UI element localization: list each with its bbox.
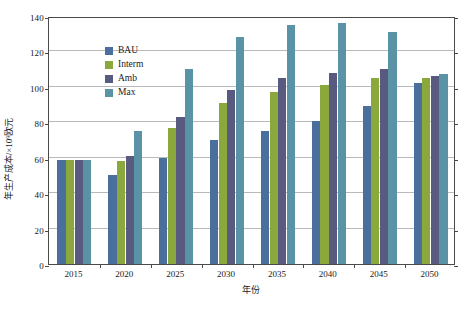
bar-interm-2045 xyxy=(371,78,379,264)
y-axis-tick-mark xyxy=(454,231,458,232)
x-axis-tick-label: 2030 xyxy=(217,269,235,279)
legend-label-bau: BAU xyxy=(118,46,138,56)
bar-interm-2030 xyxy=(219,103,227,264)
bar-interm-2020 xyxy=(117,161,125,264)
bar-amb-2025 xyxy=(176,117,184,264)
y-axis-tick-mark xyxy=(45,124,49,125)
legend-item-interm: Interm xyxy=(105,58,143,71)
bar-max-2025 xyxy=(185,69,193,264)
bar-interm-2035 xyxy=(270,92,278,264)
x-axis-tick-mark xyxy=(354,264,355,268)
y-axis-tick-mark xyxy=(45,53,49,54)
x-axis-tick-label: 2025 xyxy=(166,269,184,279)
bar-bau-2015 xyxy=(57,160,65,265)
bar-bau-2045 xyxy=(363,106,371,264)
legend-label-max: Max xyxy=(118,88,135,98)
bar-max-2020 xyxy=(134,131,142,264)
x-axis-tick-label: 2015 xyxy=(64,269,82,279)
chart-legend: BAU Interm Amb Max xyxy=(105,44,143,100)
x-axis-tick-label: 2045 xyxy=(370,269,388,279)
y-axis-tick-mark xyxy=(454,89,458,90)
x-axis-tick-mark xyxy=(100,264,101,268)
bar-amb-2030 xyxy=(227,90,235,264)
y-axis-tick-mark xyxy=(454,53,458,54)
y-axis-tick-label: 40 xyxy=(35,190,44,200)
bar-amb-2045 xyxy=(380,69,388,264)
x-axis-tick-mark xyxy=(303,264,304,268)
bar-interm-2015 xyxy=(66,160,74,265)
bar-amb-2015 xyxy=(75,160,83,265)
legend-label-interm: Interm xyxy=(118,60,143,70)
legend-swatch-bau xyxy=(105,47,113,55)
y-axis-tick-label: 140 xyxy=(30,13,44,23)
x-axis-tick-label: 2020 xyxy=(115,269,133,279)
bar-amb-2020 xyxy=(126,156,134,264)
y-axis-tick-label: 80 xyxy=(35,119,44,129)
y-axis-tick-mark xyxy=(45,89,49,90)
y-axis-tick-label: 0 xyxy=(39,261,44,271)
x-axis-title: 年份 xyxy=(242,283,260,296)
y-axis-tick-mark xyxy=(454,160,458,161)
legend-item-bau: BAU xyxy=(105,44,143,57)
bar-max-2045 xyxy=(388,32,396,264)
bar-max-2015 xyxy=(83,160,91,265)
bar-max-2040 xyxy=(338,23,346,264)
y-axis-tick-mark xyxy=(45,160,49,161)
x-axis-tick-mark xyxy=(253,264,254,268)
bar-amb-2040 xyxy=(329,73,337,264)
plot-area: 020406080100120140 BAU Interm Amb Max xyxy=(48,17,455,265)
bar-bau-2040 xyxy=(312,121,320,264)
x-axis-tick-label: 2040 xyxy=(319,269,337,279)
bar-bau-2025 xyxy=(159,158,167,264)
y-axis-tick-label: 60 xyxy=(35,155,44,165)
legend-label-amb: Amb xyxy=(118,74,137,84)
y-axis-tick-mark xyxy=(45,231,49,232)
x-axis-tick-label: 2035 xyxy=(268,269,286,279)
legend-item-amb: Amb xyxy=(105,72,143,85)
x-axis-tick-mark xyxy=(405,264,406,268)
y-axis-tick-mark xyxy=(454,18,458,19)
legend-swatch-max xyxy=(105,89,113,97)
y-axis-tick-label: 120 xyxy=(30,48,44,58)
bar-bau-2020 xyxy=(108,175,116,264)
y-axis-tick-mark xyxy=(454,266,458,267)
bar-amb-2050 xyxy=(431,76,439,264)
bar-amb-2035 xyxy=(278,78,286,264)
y-axis-tick-mark xyxy=(45,266,49,267)
bar-bau-2035 xyxy=(261,131,269,264)
bar-bau-2050 xyxy=(414,83,422,264)
y-axis-tick-mark xyxy=(45,195,49,196)
legend-swatch-interm xyxy=(105,61,113,69)
bar-max-2050 xyxy=(439,74,447,264)
y-axis-tick-mark xyxy=(454,124,458,125)
y-axis-tick-mark xyxy=(45,18,49,19)
legend-item-max: Max xyxy=(105,86,143,99)
x-axis-tick-mark xyxy=(202,264,203,268)
bar-max-2035 xyxy=(287,25,295,264)
x-axis-tick-mark xyxy=(151,264,152,268)
bar-max-2030 xyxy=(236,37,244,264)
y-axis-tick-label: 20 xyxy=(35,226,44,236)
bar-interm-2040 xyxy=(320,85,328,264)
legend-swatch-amb xyxy=(105,75,113,83)
y-axis-title: 年生产成本/×10⁹欧元 xyxy=(2,118,15,201)
y-axis-tick-label: 100 xyxy=(30,84,44,94)
bar-chart: 年生产成本/×10⁹欧元 020406080100120140 BAU Inte… xyxy=(0,0,473,318)
bar-bau-2030 xyxy=(210,140,218,264)
y-axis-tick-mark xyxy=(454,195,458,196)
x-axis-tick-label: 2050 xyxy=(421,269,439,279)
bar-interm-2025 xyxy=(168,128,176,264)
bar-interm-2050 xyxy=(422,78,430,264)
